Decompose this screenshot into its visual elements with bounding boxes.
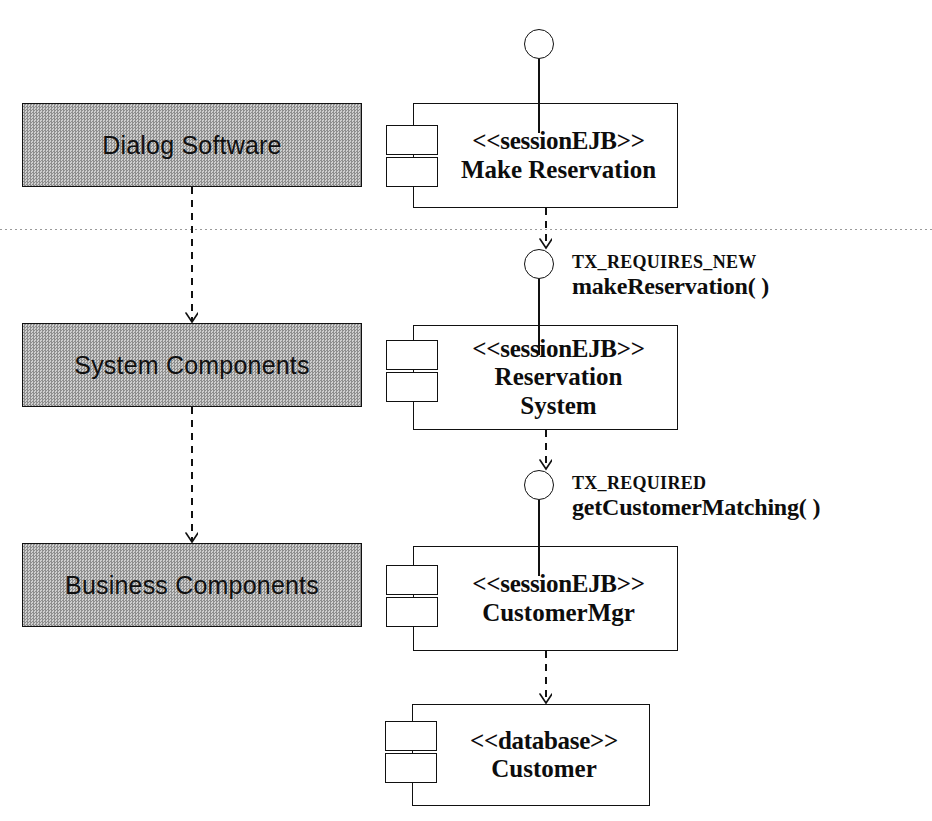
interface-label-get-customer-matching: TX_REQUIRED getCustomerMatching( ) — [572, 473, 820, 521]
interface-lollipop-top[interactable] — [524, 29, 554, 133]
component-name: Customer — [470, 755, 618, 784]
component-tab-upper-icon — [385, 721, 437, 751]
component-tab-lower-icon — [386, 157, 438, 187]
component-tab-lower-icon — [386, 372, 438, 402]
interface-lollipop-make-reservation[interactable] — [524, 249, 554, 355]
layer-box-dialog-software[interactable]: Dialog Software — [22, 103, 362, 187]
component-tab-lower-icon — [386, 597, 438, 627]
interface-label-make-reservation: TX_REQUIRES_NEW makeReservation( ) — [572, 252, 769, 300]
layer-box-business-components[interactable]: Business Components — [22, 543, 362, 627]
component-stereotype: <<sessionEJB>> — [461, 127, 656, 156]
component-name-line-2: System — [472, 392, 644, 421]
interface-circle-icon — [524, 29, 554, 59]
component-text: <<sessionEJB>> Make Reservation — [435, 127, 656, 184]
interface-tx-attribute: TX_REQUIRED — [572, 473, 820, 494]
component-name: Make Reservation — [461, 156, 656, 185]
interface-lollipop-get-customer-matching[interactable] — [524, 470, 554, 576]
component-text: <<database>> Customer — [444, 727, 618, 784]
component-tab-lower-icon — [385, 753, 437, 783]
interface-circle-icon — [524, 470, 554, 500]
component-name-line-1: Reservation — [472, 363, 644, 392]
layer-label: System Components — [74, 351, 309, 380]
component-customer-database[interactable]: <<database>> Customer — [412, 704, 650, 806]
interface-stem — [538, 500, 540, 576]
component-tab-upper-icon — [386, 125, 438, 155]
component-stereotype: <<sessionEJB>> — [472, 570, 644, 599]
component-name: CustomerMgr — [472, 599, 644, 628]
component-text: <<sessionEJB>> CustomerMgr — [446, 570, 644, 627]
component-tab-upper-icon — [386, 340, 438, 370]
interface-operation: getCustomerMatching( ) — [572, 494, 820, 521]
component-tab-upper-icon — [386, 565, 438, 595]
layer-label: Business Components — [65, 571, 319, 600]
layer-box-system-components[interactable]: System Components — [22, 323, 362, 407]
component-body: <<database>> Customer — [412, 704, 650, 806]
uml-component-diagram: Dialog Software System Components Busine… — [0, 0, 932, 821]
interface-circle-icon — [524, 249, 554, 279]
interface-operation: makeReservation( ) — [572, 273, 769, 300]
layer-label: Dialog Software — [102, 131, 281, 160]
interface-stem — [538, 279, 540, 355]
interface-stem — [538, 59, 540, 133]
component-stereotype: <<database>> — [470, 727, 618, 756]
component-stereotype: <<sessionEJB>> — [472, 335, 644, 364]
interface-tx-attribute: TX_REQUIRES_NEW — [572, 252, 769, 273]
